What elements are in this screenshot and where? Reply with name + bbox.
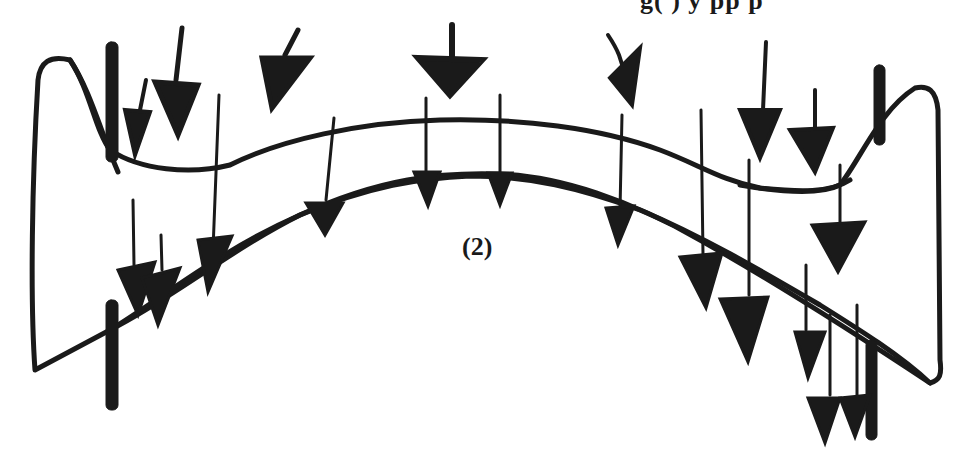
- arrow-top-2: [155, 28, 198, 135]
- arrow-top-3: [262, 30, 310, 108]
- arrow-top-5: [608, 35, 640, 105]
- arrow-top-6: [740, 42, 780, 158]
- thick-bar-left: [106, 42, 118, 162]
- figure-label: (2): [462, 232, 492, 262]
- arrow-top-1: [125, 80, 150, 155]
- arrow-thru-1: [198, 95, 232, 292]
- thick-bar-right-lower: [866, 340, 877, 440]
- arrow-thru-8: [812, 165, 865, 272]
- arrow-thru-3: [414, 98, 440, 206]
- thick-bar-left-lower: [106, 300, 118, 410]
- arrow-top-7: [790, 90, 833, 172]
- thick-bar-right: [874, 65, 885, 145]
- arrow-low-3: [795, 265, 825, 378]
- arrow-top-4: [418, 25, 482, 95]
- arrow-thru-4: [488, 95, 512, 205]
- arrow-thru-6: [680, 110, 722, 308]
